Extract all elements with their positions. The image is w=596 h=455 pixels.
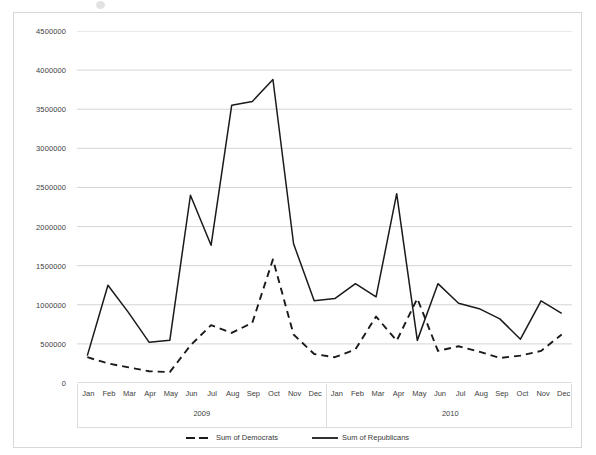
y-tick-label: 3000000 [36,144,66,153]
x-tick-label: Apr [393,389,405,398]
x-tick-label: Jan [331,389,343,398]
series-line-sum-of-democrats [87,259,561,372]
legend-item[interactable]: Sum of Democrats [186,433,278,442]
y-tick-label: 0 [62,379,66,388]
plot-area [77,31,572,383]
x-tick-label: Oct [268,389,280,398]
x-tick-label: Nov [288,389,301,398]
x-tick-label: Nov [536,389,549,398]
x-month-labels: JanFebMarAprMayJunJulAugSepOctNovDec [78,384,326,406]
x-tick-label: Jan [82,389,94,398]
x-tick-label: Oct [517,389,529,398]
y-tick-label: 2000000 [36,222,66,231]
x-axis-year-label: 2010 [327,409,575,418]
x-tick-label: Sep [495,389,508,398]
x-tick-label: Feb [351,389,364,398]
line-chart-svg [77,31,572,383]
y-axis: 4500000400000035000003000000250000020000… [14,31,72,383]
x-tick-label: May [164,389,178,398]
x-tick-label: Dec [557,389,570,398]
y-tick-label: 1000000 [36,300,66,309]
legend-swatch-solid [312,434,338,442]
legend-label: Sum of Democrats [216,433,278,442]
x-tick-label: Jun [434,389,446,398]
x-tick-label: Mar [123,389,136,398]
y-tick-label: 4500000 [36,27,66,36]
y-tick-label: 500000 [40,339,66,348]
x-tick-label: Sep [247,389,260,398]
y-tick-label: 3500000 [36,105,66,114]
x-tick-label: Jul [207,389,217,398]
x-month-labels: JanFebMarAprMayJunJulAugSepOctNovDec [327,384,575,406]
x-tick-label: Mar [372,389,385,398]
x-tick-label: Apr [144,389,156,398]
legend-label: Sum of Republicans [342,433,409,442]
legend-item[interactable]: Sum of Republicans [312,433,409,442]
x-axis-group-2010: JanFebMarAprMayJunJulAugSepOctNovDec2010 [326,384,575,428]
x-tick-label: Jul [456,389,466,398]
scan-speckle-artifact [96,1,105,9]
legend-swatch-dashed [186,434,212,442]
series-line-sum-of-republicans [87,79,561,355]
x-axis-group-2009: JanFebMarAprMayJunJulAugSepOctNovDec2009 [78,384,326,428]
x-axis-year-label: 2009 [78,409,326,418]
y-tick-label: 1500000 [36,261,66,270]
x-tick-label: Feb [102,389,115,398]
y-tick-label: 2500000 [36,183,66,192]
x-tick-label: Aug [475,389,488,398]
x-tick-label: Dec [309,389,322,398]
y-tick-label: 4000000 [36,66,66,75]
chart-legend: Sum of DemocratsSum of Republicans [14,433,581,442]
x-axis: JanFebMarAprMayJunJulAugSepOctNovDec2009… [77,384,572,428]
chart-frame: 4500000400000035000003000000250000020000… [13,12,582,448]
x-tick-label: May [412,389,426,398]
x-tick-label: Aug [226,389,239,398]
x-tick-label: Jun [185,389,197,398]
